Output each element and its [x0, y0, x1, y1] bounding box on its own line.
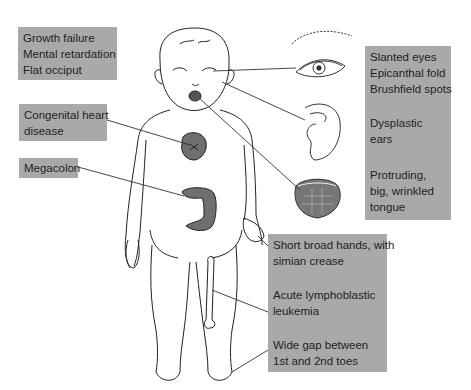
torso-left — [125, 110, 170, 268]
heart-organ — [182, 133, 207, 160]
label-line: leukemia — [273, 303, 382, 319]
child-eye-left — [173, 68, 187, 71]
megacolon-organ — [182, 188, 216, 231]
label-line: Wide gap between — [273, 337, 382, 353]
label-line: Dysplastic — [370, 115, 446, 131]
right-leg — [196, 245, 237, 380]
label-line: tongue — [370, 199, 446, 215]
label-line: Protruding, — [370, 167, 446, 183]
label-megacolon: Megacolon — [19, 158, 78, 178]
label-growth-failure: Growth failure Mental retardation Flat o… — [18, 27, 117, 80]
label-eyes: Slanted eyes Epicanthal fold Brushfield … — [370, 49, 446, 97]
torso-right — [220, 110, 262, 245]
label-line: big, wrinkled — [370, 183, 446, 199]
femur-bone — [204, 256, 214, 328]
label-line: Epicanthal fold — [370, 65, 446, 81]
eye-inset — [292, 31, 352, 76]
label-line: Megacolon — [24, 160, 73, 176]
label-ears: Dysplastic ears — [370, 115, 446, 147]
label-line: 1st and 2nd toes — [273, 353, 382, 369]
label-hands: Short broad hands, with simian crease — [273, 237, 382, 269]
label-tongue: Protruding, big, wrinkled tongue — [370, 167, 446, 215]
label-line: Congenital heart — [24, 107, 102, 123]
label-line: Growth failure — [23, 30, 112, 46]
tongue-inset — [295, 179, 340, 218]
label-line: disease — [24, 123, 102, 139]
label-head-features: Slanted eyes Epicanthal fold Brushfield … — [365, 46, 451, 220]
label-line: simian crease — [273, 253, 382, 269]
ear-inset — [305, 104, 340, 160]
label-line: Slanted eyes — [370, 49, 446, 65]
label-leukemia: Acute lymphoblastic leukemia — [273, 287, 382, 319]
label-limb-features: Short broad hands, with simian crease Ac… — [268, 234, 387, 372]
label-line: Mental retardation — [23, 46, 112, 62]
label-line: Acute lymphoblastic — [273, 287, 382, 303]
label-line: ears — [370, 131, 446, 147]
label-congenital-heart-disease: Congenital heart disease — [19, 104, 107, 141]
label-line: Brushfield spots — [370, 81, 446, 97]
left-leg — [151, 245, 190, 380]
label-line: Flat occiput — [23, 62, 112, 78]
child-tongue — [189, 91, 201, 101]
label-toes: Wide gap between 1st and 2nd toes — [273, 337, 382, 369]
label-line: Short broad hands, with — [273, 237, 382, 253]
